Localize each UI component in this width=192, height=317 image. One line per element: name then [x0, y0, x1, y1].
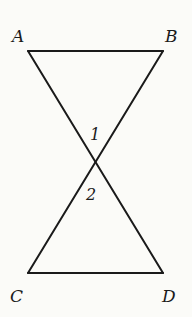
angle-label-2: 2: [85, 185, 96, 204]
point-label-d: D: [161, 286, 176, 306]
point-label-b: B: [164, 26, 178, 46]
point-label-c: C: [10, 286, 23, 306]
angle-label-1: 1: [90, 125, 100, 144]
geometry-diagram: A B C D 1 2: [0, 0, 192, 317]
point-label-a: A: [10, 26, 24, 46]
